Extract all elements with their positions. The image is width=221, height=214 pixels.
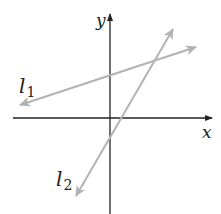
line-l2 xyxy=(76,29,173,196)
coordinate-diagram: y x l1 l2 xyxy=(0,0,221,214)
line-l1-label: l1 xyxy=(19,74,35,100)
y-axis-label: y xyxy=(95,10,106,30)
x-axis-label: x xyxy=(202,122,212,142)
line-l1 xyxy=(20,47,196,105)
line-l2-label: l2 xyxy=(56,167,72,193)
